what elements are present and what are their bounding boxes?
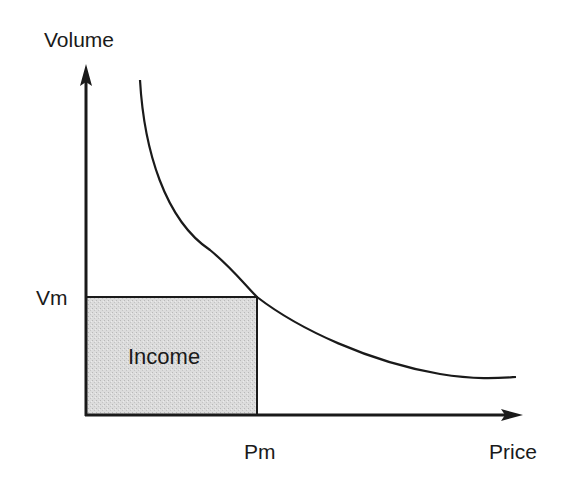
vm-marker-label: Vm: [36, 287, 68, 308]
x-axis-label: Price: [489, 441, 537, 462]
demand-curve-diagram: [0, 0, 582, 489]
pm-marker-label: Pm: [244, 441, 276, 462]
income-label: Income: [128, 346, 200, 368]
y-axis-label: Volume: [44, 29, 114, 50]
